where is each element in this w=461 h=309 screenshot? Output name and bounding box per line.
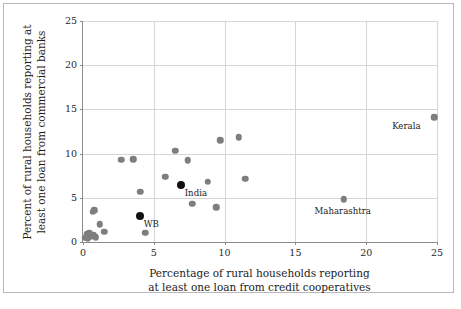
x-axis-tick-label: 20 xyxy=(360,248,372,258)
data-point[interactable] xyxy=(130,156,137,163)
data-point[interactable] xyxy=(213,204,220,211)
y-axis-tickmark xyxy=(80,21,83,22)
x-axis-tickmark xyxy=(295,242,296,245)
data-point[interactable] xyxy=(204,179,211,186)
data-point-maharashtra[interactable] xyxy=(340,196,347,203)
plot-area: 05101520250510152025KeralaMaharashtraInd… xyxy=(82,21,437,243)
y-axis-tick-label: 0 xyxy=(71,237,77,247)
x-axis-tick-label: 25 xyxy=(431,248,443,258)
gridline-horizontal xyxy=(83,21,437,22)
x-axis-label-line2: at least one loan from credit cooperativ… xyxy=(148,281,370,293)
data-point[interactable] xyxy=(217,137,224,144)
gridline-vertical xyxy=(295,21,296,242)
point-label-wb: WB xyxy=(144,220,159,229)
x-axis-tickmark xyxy=(366,242,367,245)
y-axis-label-line2: least one loan from commercial banks xyxy=(35,31,47,234)
x-axis-tick-label: 15 xyxy=(289,248,301,258)
x-axis-tickmark xyxy=(225,242,226,245)
x-axis-label-line1: Percentage of rural households reporting xyxy=(149,267,369,279)
y-axis-tick-label: 20 xyxy=(65,60,77,70)
x-axis-tick-label: 0 xyxy=(80,248,86,258)
data-point-kerala[interactable] xyxy=(431,114,438,121)
data-point[interactable] xyxy=(185,157,192,164)
gridline-horizontal xyxy=(83,65,437,66)
data-point-india[interactable] xyxy=(177,181,185,189)
y-axis-tickmark xyxy=(80,198,83,199)
data-point[interactable] xyxy=(189,200,196,207)
point-label-kerala: Kerala xyxy=(392,122,420,131)
gridline-vertical xyxy=(154,21,155,242)
data-point[interactable] xyxy=(137,188,144,195)
gridline-horizontal xyxy=(83,109,437,110)
y-axis-tick-label: 25 xyxy=(65,16,77,26)
gridline-vertical xyxy=(437,21,438,242)
data-point[interactable] xyxy=(242,176,249,183)
y-axis-tickmark xyxy=(80,65,83,66)
data-point[interactable] xyxy=(118,157,125,164)
y-axis-label-line1: Percent of rural households reporting at xyxy=(21,24,33,239)
gridline-vertical xyxy=(225,21,226,242)
x-axis-tickmark xyxy=(154,242,155,245)
data-point[interactable] xyxy=(97,221,104,228)
point-label-india: India xyxy=(185,189,207,198)
data-point[interactable] xyxy=(162,173,169,180)
figure-frame: Percent of rural households reporting at… xyxy=(3,3,454,293)
x-axis-tickmark xyxy=(83,242,84,245)
x-axis-label: Percentage of rural households reporting… xyxy=(82,266,437,294)
x-axis-tick-label: 10 xyxy=(219,248,231,258)
gridline-horizontal xyxy=(83,154,437,155)
data-point[interactable] xyxy=(91,207,98,214)
y-axis-tick-label: 15 xyxy=(65,105,77,115)
data-point[interactable] xyxy=(142,229,149,236)
y-axis-tick-label: 5 xyxy=(71,193,77,203)
point-label-maharashtra: Maharashtra xyxy=(315,207,371,216)
data-point[interactable] xyxy=(236,134,243,141)
data-point-wb[interactable] xyxy=(136,212,144,220)
data-point[interactable] xyxy=(101,229,108,236)
x-axis-tickmark xyxy=(437,242,438,245)
data-point[interactable] xyxy=(92,234,99,241)
y-axis-tickmark xyxy=(80,154,83,155)
y-axis-label: Percent of rural households reporting at… xyxy=(14,21,54,243)
gridline-horizontal xyxy=(83,198,437,199)
data-point[interactable] xyxy=(172,148,179,155)
y-axis-tickmark xyxy=(80,109,83,110)
y-axis-tick-label: 10 xyxy=(65,149,77,159)
x-axis-tick-label: 5 xyxy=(151,248,157,258)
